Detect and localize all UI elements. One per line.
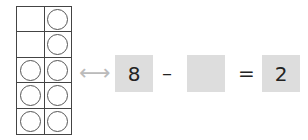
ten-frame-cell — [17, 83, 45, 108]
counter-circle-icon — [47, 9, 68, 30]
counter-circle-icon — [20, 111, 41, 132]
counter-circle-icon — [47, 111, 68, 132]
ten-frame-cell — [44, 7, 72, 32]
counter-circle-icon — [20, 60, 41, 81]
ten-frame-cell — [17, 7, 45, 32]
subtrahend-input-box[interactable] — [187, 55, 225, 92]
counter-circle-icon — [47, 85, 68, 106]
ten-frame-cell — [17, 58, 45, 83]
ten-frame-cell — [44, 32, 72, 57]
ten-frame-cell — [44, 109, 72, 134]
counter-circle-icon — [20, 85, 41, 106]
equals-sign: = — [238, 58, 255, 88]
double-arrow-icon: ⟷ — [79, 60, 111, 86]
ten-frame-cell — [44, 83, 72, 108]
ten-frame — [16, 6, 72, 135]
ten-frame-cell — [17, 109, 45, 134]
ten-frame-cell — [17, 32, 45, 57]
counter-circle-icon — [47, 34, 68, 55]
counter-circle-icon — [47, 60, 68, 81]
minuend-box: 8 — [115, 55, 153, 92]
minus-sign: – — [162, 58, 172, 88]
ten-frame-cell — [44, 58, 72, 83]
result-box: 2 — [262, 55, 300, 92]
